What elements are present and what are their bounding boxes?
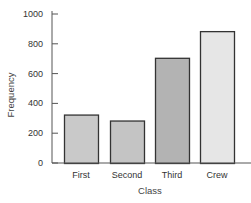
x-axis-title: Class (138, 185, 162, 196)
x-tick-label: Third (162, 170, 183, 180)
x-tick-label: First (72, 170, 90, 180)
y-tick-label: 0 (38, 158, 43, 168)
bar-third (156, 58, 190, 163)
bars (65, 32, 235, 164)
x-tick-label: Crew (206, 170, 228, 180)
y-tick-label: 400 (28, 98, 43, 108)
bar-second (111, 121, 145, 163)
y-axis-title: Frequency (5, 72, 16, 117)
x-axis: FirstSecondThirdCrew (52, 163, 251, 180)
bar-chart: 02004006008001000 FirstSecondThirdCrew F… (0, 0, 251, 203)
x-tick-label: Second (112, 170, 143, 180)
y-tick-label: 200 (28, 128, 43, 138)
bar-crew (201, 32, 235, 164)
y-tick-label: 1000 (23, 9, 43, 19)
y-tick-label: 600 (28, 69, 43, 79)
bar-first (65, 115, 99, 163)
y-axis: 02004006008001000 (23, 9, 58, 168)
y-tick-label: 800 (28, 39, 43, 49)
